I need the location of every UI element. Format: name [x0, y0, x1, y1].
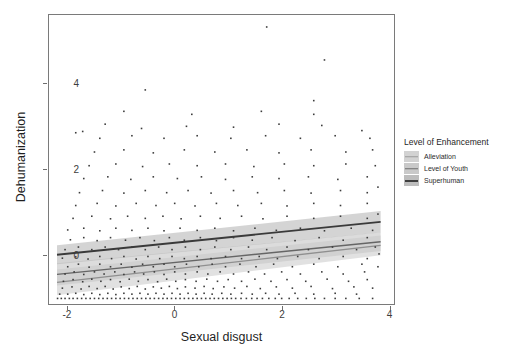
scatter-point	[340, 205, 342, 207]
scatter-point	[111, 258, 113, 260]
scatter-point	[115, 227, 117, 229]
scatter-point	[294, 292, 296, 294]
scatter-point	[107, 298, 109, 300]
scatter-point	[217, 281, 219, 283]
scatter-point	[207, 273, 209, 275]
scatter-point	[239, 263, 241, 265]
scatter-plot-figure: -2024 024 Sexual disgust Dehumanization …	[0, 0, 515, 357]
scatter-point	[184, 258, 186, 260]
scatter-point	[253, 166, 255, 168]
scatter-point	[188, 298, 190, 300]
scatter-point	[300, 227, 302, 229]
scatter-point	[186, 126, 188, 128]
scatter-point	[297, 298, 299, 300]
scatter-point	[128, 298, 130, 300]
scatter-point	[158, 298, 160, 300]
scatter-point	[185, 273, 187, 275]
legend-entries: AlleviationLevel of YouthSuperhuman	[404, 151, 489, 186]
scatter-point	[141, 298, 143, 300]
scatter-point	[163, 138, 165, 140]
scatter-point	[131, 246, 133, 248]
scatter-point	[195, 293, 197, 295]
legend: Level of Enhancement AlleviationLevel of…	[404, 137, 489, 187]
legend-item[interactable]: Superhuman	[404, 175, 489, 186]
scatter-point	[313, 293, 315, 295]
scatter-point	[369, 138, 371, 140]
scatter-point	[128, 278, 130, 280]
scatter-point	[366, 218, 368, 220]
scatter-point	[72, 279, 74, 281]
scatter-point	[372, 298, 374, 300]
scatter-point	[98, 298, 100, 300]
scatter-point	[266, 249, 268, 251]
scatter-point	[233, 273, 235, 275]
scatter-point	[251, 298, 253, 300]
scatter-point	[96, 288, 98, 290]
scatter-point	[200, 249, 202, 251]
scatter-point	[138, 281, 140, 283]
scatter-point	[278, 123, 280, 125]
scatter-point	[216, 203, 218, 205]
scatter-point	[254, 278, 256, 280]
scatter-point	[177, 178, 179, 180]
scatter-point	[361, 263, 363, 265]
scatter-point	[88, 286, 90, 288]
scatter-point	[83, 227, 85, 229]
scatter-point	[265, 292, 267, 294]
scatter-point	[169, 237, 171, 239]
scatter-point	[284, 163, 286, 165]
scatter-point	[276, 286, 278, 288]
scatter-point	[378, 253, 380, 255]
scatter-point	[266, 26, 268, 28]
scatter-point	[112, 288, 114, 290]
scatter-point	[94, 298, 96, 300]
scatter-point	[313, 203, 315, 205]
scatter-point	[230, 293, 232, 295]
scatter-point	[300, 273, 302, 275]
scatter-point	[313, 165, 315, 167]
scatter-point	[184, 149, 186, 151]
scatter-point	[75, 205, 77, 207]
scatter-point	[255, 266, 257, 268]
scatter-point	[313, 100, 315, 102]
scatter-point	[118, 249, 120, 251]
scatter-point	[99, 138, 101, 140]
scatter-point	[81, 298, 83, 300]
scatter-point	[340, 190, 342, 192]
scatter-point	[64, 249, 66, 251]
scatter-point	[310, 149, 312, 151]
legend-item[interactable]: Alleviation	[404, 151, 489, 162]
scatter-point	[248, 246, 250, 248]
scatter-point	[313, 114, 315, 116]
scatter-point	[107, 176, 109, 178]
scatter-point	[185, 279, 187, 281]
scatter-point	[345, 163, 347, 165]
scatter-point	[324, 230, 326, 232]
scatter-point	[337, 266, 339, 268]
scatter-point	[82, 281, 84, 283]
legend-key-swatch	[404, 175, 419, 186]
scatter-point	[257, 192, 259, 194]
scatter-point	[67, 266, 69, 268]
scatter-point	[123, 149, 125, 151]
scatter-point	[211, 263, 213, 265]
scatter-point	[70, 239, 72, 241]
scatter-point	[88, 165, 90, 167]
scatter-point	[200, 237, 202, 239]
scatter-point	[292, 266, 294, 268]
scatter-point	[334, 298, 336, 300]
scatter-point	[308, 176, 310, 178]
scatter-point	[259, 288, 261, 290]
scatter-point	[211, 293, 213, 295]
scatter-point	[163, 230, 165, 232]
scatter-point	[175, 281, 177, 283]
scatter-point	[294, 240, 296, 242]
scatter-point	[196, 298, 198, 300]
scatter-point	[258, 256, 260, 258]
scatter-point	[171, 292, 173, 294]
x-tick-label: 2	[279, 309, 285, 320]
scatter-point	[313, 263, 315, 265]
scatter-point	[374, 165, 376, 167]
scatter-point	[78, 263, 80, 265]
legend-item[interactable]: Level of Youth	[404, 163, 489, 174]
